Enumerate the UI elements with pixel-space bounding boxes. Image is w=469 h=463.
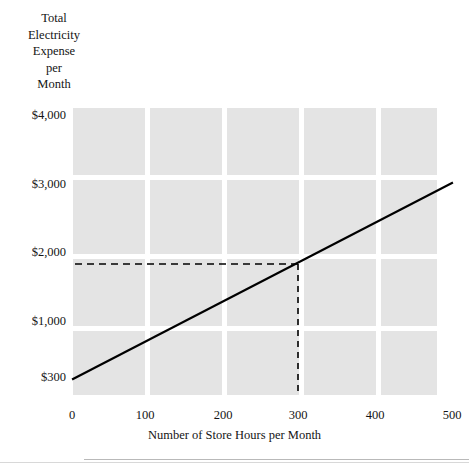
grid-cell (150, 180, 222, 254)
grid-cell (73, 259, 145, 326)
x-tick-label-300: 300 (278, 409, 318, 422)
plot-area (73, 108, 437, 395)
grid-cell (304, 331, 376, 395)
grid-cell (381, 180, 437, 254)
y-axis-title-line: Total (0, 10, 108, 27)
y-axis-title-line: Electricity (0, 27, 108, 44)
grid-cell (381, 331, 437, 395)
grid-cell (227, 259, 299, 326)
x-tick-label-500: 500 (432, 409, 469, 422)
page-rule (84, 459, 469, 460)
y-tick-label-2000: $2,000 (0, 246, 66, 259)
y-tick-label-3000: $3,000 (0, 178, 66, 191)
grid-cell (227, 108, 299, 175)
grid-cell (73, 108, 145, 175)
grid-cell (150, 108, 222, 175)
y-axis-title-line: Month (0, 76, 108, 93)
y-axis-title: Total Electricity Expense per Month (0, 10, 108, 93)
grid-cell (304, 259, 376, 326)
grid-cell (150, 331, 222, 395)
x-axis-title: Number of Store Hours per Month (0, 428, 469, 443)
x-tick-label-400: 400 (355, 409, 395, 422)
x-tick-label-200: 200 (203, 409, 243, 422)
grid-cell (381, 108, 437, 175)
grid-cell (73, 331, 145, 395)
grid-cell (227, 180, 299, 254)
y-tick-label-300: $300 (0, 371, 66, 384)
y-tick-label-1000: $1,000 (0, 315, 66, 328)
grid-cell (304, 180, 376, 254)
grid-cell (381, 259, 437, 326)
grid-cell (150, 259, 222, 326)
x-tick-label-100: 100 (125, 409, 165, 422)
grid-cell (73, 180, 145, 254)
x-tick-label-0: 0 (52, 409, 92, 422)
y-axis-title-line: Expense (0, 43, 108, 60)
y-tick-label-4000: $4,000 (0, 109, 66, 122)
electricity-expense-chart: Total Electricity Expense per Month $4,0… (0, 0, 469, 463)
y-axis-title-line: per (0, 60, 108, 77)
grid-cell (227, 331, 299, 395)
grid-cell (304, 108, 376, 175)
